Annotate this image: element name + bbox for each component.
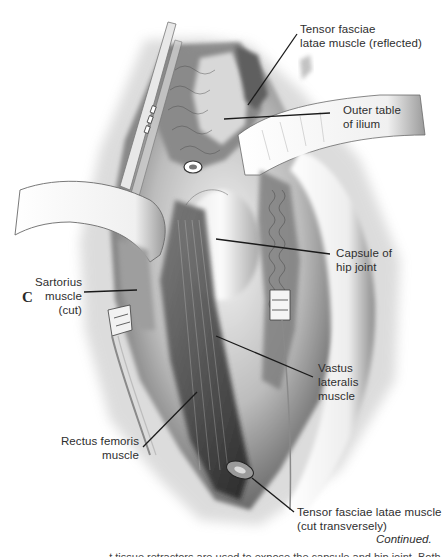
label-line: Tensor fasciae latae muscle [297,505,442,519]
label-line: latae muscle (reflected) [300,36,422,50]
label-line: Rectus femoris [55,434,139,448]
label-line: lateralis [318,375,359,389]
label-line: Capsule of [336,246,392,260]
label-line: Outer table [343,103,401,117]
label-line: muscle [55,448,139,462]
label-outer-table-of-ilium: Outer table of ilium [343,103,401,131]
label-line: muscle [34,289,82,303]
cutoff-caption-text: ...t tissue retractors are used to expos… [100,551,441,557]
label-line: of ilium [343,117,401,131]
label-tensor-fasciae-reflected: Tensor fasciae latae muscle (reflected) [300,22,422,50]
label-rectus-femoris-muscle: Rectus femoris muscle [55,434,139,462]
label-line: hip joint [336,260,392,274]
label-vastus-lateralis-muscle: Vastus lateralis muscle [318,361,359,403]
label-tensor-fasciae-transverse: Tensor fasciae latae muscle (cut transve… [297,505,442,533]
label-line: Sartorius [34,275,82,289]
label-line: Tensor fasciae [300,22,422,36]
label-line: muscle [318,389,359,403]
label-capsule-of-hip-joint: Capsule of hip joint [336,246,392,274]
panel-letter: C [22,289,33,306]
label-line: Vastus [318,361,359,375]
label-line: (cut) [34,303,82,317]
continued-label: Continued. [376,533,432,545]
label-sartorius-muscle: Sartorius muscle (cut) [34,275,82,317]
label-line: (cut transversely) [297,519,442,533]
